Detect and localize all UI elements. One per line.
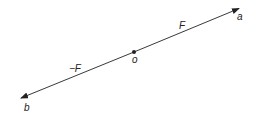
- point-a-label: a: [237, 11, 243, 22]
- vector-f-arrow: [134, 9, 239, 53]
- vector-neg-f-label: −F: [69, 63, 82, 74]
- vector-f-label: F: [179, 20, 186, 31]
- point-o-label: o: [132, 54, 138, 65]
- point-b-label: b: [24, 102, 30, 113]
- force-diagram: a b o F −F: [0, 0, 255, 119]
- vector-neg-f-arrow: [21, 52, 134, 98]
